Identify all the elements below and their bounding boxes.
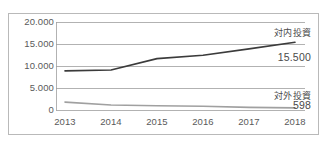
y-tick-label: 0 — [6, 104, 54, 115]
x-tick-label: 2013 — [45, 116, 85, 127]
x-tick-label: 2015 — [137, 116, 177, 127]
x-tick-label: 2016 — [183, 116, 223, 127]
chart-figure: 20.000 15.000 10.000 5.000 0 2013 2014 2… — [0, 0, 328, 146]
y-tick-label: 15.000 — [6, 38, 54, 49]
x-tick-label: 2017 — [229, 116, 269, 127]
series-value-inbound: 15.500 — [245, 51, 311, 63]
y-tick-label: 20.000 — [6, 16, 54, 27]
series-value-outbound: 598 — [245, 99, 311, 111]
series-label-inbound: 対内投資 — [245, 26, 311, 39]
y-tick-label: 10.000 — [6, 60, 54, 71]
x-tick-label: 2014 — [91, 116, 131, 127]
y-tick-label: 5.000 — [6, 82, 54, 93]
x-tick-label: 2018 — [275, 116, 315, 127]
